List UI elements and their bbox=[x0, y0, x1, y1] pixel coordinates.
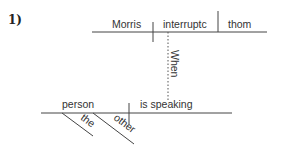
modifier-word-other: other bbox=[112, 111, 139, 135]
sentence-diagram: Morris interruptc thom When person is sp… bbox=[0, 0, 283, 150]
main-object-word: thom bbox=[228, 18, 252, 30]
sub-subject-word: person bbox=[62, 98, 94, 110]
sub-verb-word: is speaking bbox=[140, 98, 193, 110]
main-verb-word: interruptc bbox=[163, 18, 207, 30]
main-subject-word: Morris bbox=[112, 18, 141, 30]
connector-word: When bbox=[169, 50, 181, 78]
modifier-word-the: the bbox=[79, 111, 98, 129]
